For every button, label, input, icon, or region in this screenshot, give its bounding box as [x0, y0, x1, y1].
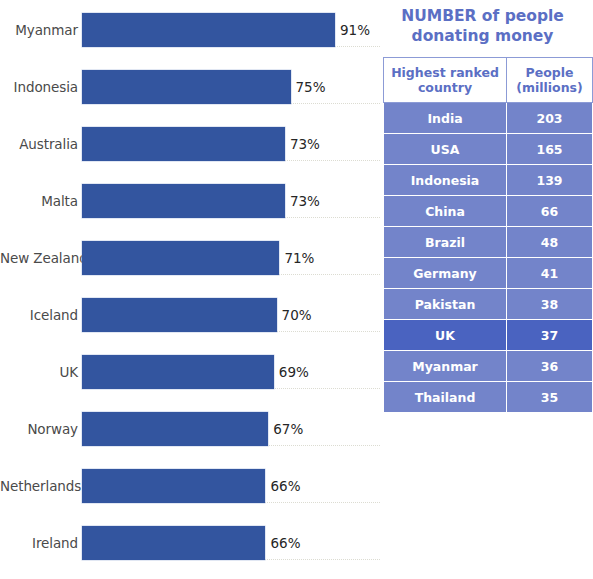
table-cell-country: India	[384, 103, 507, 134]
bar-chart: Myanmar91%Indonesia75%Australia73%Malta7…	[0, 0, 380, 579]
bar-category-label: Ireland	[0, 535, 82, 551]
bar-category-label: UK	[0, 364, 82, 380]
bar-track: 66%	[82, 469, 380, 503]
bar-fill	[82, 355, 274, 389]
bar-track: 75%	[82, 70, 380, 104]
bar-category-label: Malta	[0, 193, 82, 209]
table-cell-country: UK	[384, 320, 507, 351]
bar-category-label: Myanmar	[0, 22, 82, 38]
bar-row: Norway67%	[0, 400, 380, 457]
table-cell-country: Brazil	[384, 227, 507, 258]
column-header-people: People (millions)	[507, 58, 593, 103]
table-row: Brazil48	[384, 227, 593, 258]
bar-category-label: Australia	[0, 136, 82, 152]
bar-category-label: New Zealand	[0, 250, 82, 266]
bar-fill	[82, 70, 291, 104]
table-cell-people: 35	[507, 382, 593, 413]
bar-fill	[82, 469, 265, 503]
bar-value-label: 66%	[270, 535, 300, 551]
column-header-people-line-2: (millions)	[509, 80, 590, 95]
table-cell-people: 203	[507, 103, 593, 134]
bar-row: New Zealand71%	[0, 229, 380, 286]
bar-track: 66%	[82, 526, 380, 560]
table-row: UK37	[384, 320, 593, 351]
table-cell-people: 66	[507, 196, 593, 227]
bar-row: Netherlands66%	[0, 457, 380, 514]
table-row: Pakistan38	[384, 289, 593, 320]
donation-table: Highest ranked country People (millions)…	[383, 57, 593, 413]
column-header-country-line-2: country	[386, 80, 504, 95]
bar-value-label: 75%	[296, 79, 326, 95]
bar-fill	[82, 241, 279, 275]
table-title: NUMBER of people donating money	[381, 6, 584, 46]
bar-track: 69%	[82, 355, 380, 389]
column-header-people-line-1: People	[509, 65, 590, 80]
bar-fill	[82, 13, 335, 47]
table-cell-people: 48	[507, 227, 593, 258]
table-cell-people: 37	[507, 320, 593, 351]
bar-track: 91%	[82, 13, 380, 47]
bar-value-label: 66%	[270, 478, 300, 494]
bar-fill	[82, 127, 285, 161]
bar-row: Ireland66%	[0, 514, 380, 571]
table-cell-country: Pakistan	[384, 289, 507, 320]
table-row: Indonesia139	[384, 165, 593, 196]
bar-category-label: Netherlands	[0, 478, 82, 494]
table-cell-people: 41	[507, 258, 593, 289]
table-row: Thailand35	[384, 382, 593, 413]
bar-fill	[82, 412, 268, 446]
table-title-line-2: donating money	[381, 26, 584, 46]
bar-row: Malta73%	[0, 172, 380, 229]
table-row: India203	[384, 103, 593, 134]
bar-track: 73%	[82, 127, 380, 161]
bar-row: Indonesia75%	[0, 58, 380, 115]
bar-value-label: 67%	[273, 421, 303, 437]
bar-category-label: Indonesia	[0, 79, 82, 95]
bar-value-label: 71%	[284, 250, 314, 266]
table-cell-country: Germany	[384, 258, 507, 289]
table-cell-country: Indonesia	[384, 165, 507, 196]
bar-category-label: Norway	[0, 421, 82, 437]
bar-row: Myanmar91%	[0, 1, 380, 58]
column-header-country: Highest ranked country	[384, 58, 507, 103]
table-cell-people: 165	[507, 134, 593, 165]
table-header: Highest ranked country People (millions)	[384, 58, 593, 103]
table-cell-country: Thailand	[384, 382, 507, 413]
table-row: USA165	[384, 134, 593, 165]
table-cell-people: 139	[507, 165, 593, 196]
table-cell-country: Myanmar	[384, 351, 507, 382]
bar-value-label: 73%	[290, 193, 320, 209]
bar-track: 70%	[82, 298, 380, 332]
table-cell-country: USA	[384, 134, 507, 165]
column-header-country-line-1: Highest ranked	[386, 65, 504, 80]
table-title-line-1: NUMBER of people	[381, 6, 584, 26]
bar-category-label: Iceland	[0, 307, 82, 323]
bar-track: 73%	[82, 184, 380, 218]
table-cell-people: 36	[507, 351, 593, 382]
bar-value-label: 70%	[282, 307, 312, 323]
bar-row: Australia73%	[0, 115, 380, 172]
table-row: Myanmar36	[384, 351, 593, 382]
table-header-row: Highest ranked country People (millions)	[384, 58, 593, 103]
table-body: India203USA165Indonesia139China66Brazil4…	[384, 103, 593, 413]
bar-value-label: 69%	[279, 364, 309, 380]
bar-fill	[82, 184, 285, 218]
bar-track: 67%	[82, 412, 380, 446]
table-row: China66	[384, 196, 593, 227]
bar-fill	[82, 526, 265, 560]
bar-track: 71%	[82, 241, 380, 275]
table-cell-people: 38	[507, 289, 593, 320]
bar-fill	[82, 298, 277, 332]
bar-row: Iceland70%	[0, 286, 380, 343]
table-cell-country: China	[384, 196, 507, 227]
table-row: Germany41	[384, 258, 593, 289]
bar-value-label: 73%	[290, 136, 320, 152]
table-panel: NUMBER of people donating money Highest …	[381, 0, 584, 579]
bar-value-label: 91%	[340, 22, 370, 38]
bar-row: UK69%	[0, 343, 380, 400]
